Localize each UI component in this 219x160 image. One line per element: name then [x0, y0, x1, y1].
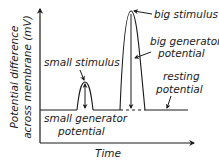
generator-potential-diagram: Potential difference across membrane (mV… [0, 0, 219, 160]
label-resting-line1: resting [163, 70, 200, 82]
x-axis-label: Time [95, 147, 121, 159]
resting-arrow [167, 96, 171, 108]
label-big-stimulus: big stimulus [154, 8, 219, 20]
label-big-generator-line1: big generator [150, 35, 219, 47]
label-small-generator-line1: small generator [44, 112, 128, 124]
big-peak [120, 11, 145, 110]
y-axis-label-line2: across membrane (mV) [21, 15, 33, 139]
big-stimulus-arrow [134, 11, 152, 14]
label-small-generator-line2: potential [57, 125, 105, 137]
label-big-generator-line2: potential [157, 47, 205, 59]
big-generator-arrow [135, 52, 151, 58]
label-small-stimulus: small stimulus [44, 56, 120, 68]
y-axis-label-line1: Potential difference [8, 26, 20, 129]
small-stimulus-arrow [80, 70, 84, 80]
label-resting-line2: potential [155, 83, 203, 95]
